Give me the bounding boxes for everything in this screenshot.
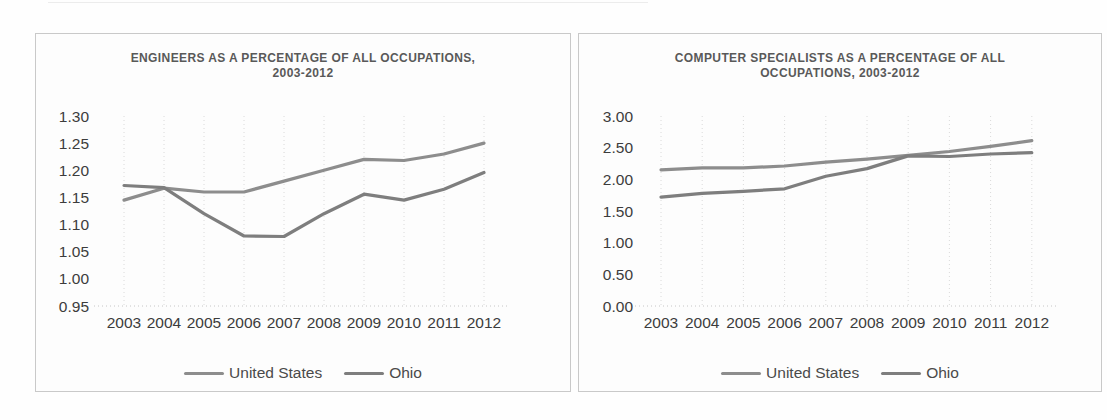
svg-text:2004: 2004 [685, 314, 720, 331]
svg-text:2007: 2007 [809, 314, 843, 331]
engineers-legend: United States Ohio [36, 364, 570, 382]
svg-text:2005: 2005 [187, 314, 221, 331]
svg-text:2008: 2008 [307, 314, 341, 331]
title-line-1: ENGINEERS AS A PERCENTAGE OF ALL OCCUPAT… [36, 51, 570, 66]
scan-artifact-line [48, 2, 648, 3]
svg-text:2008: 2008 [850, 314, 884, 331]
svg-text:1.25: 1.25 [59, 135, 89, 152]
svg-text:1.15: 1.15 [59, 189, 89, 206]
svg-text:2007: 2007 [267, 314, 301, 331]
svg-text:1.00: 1.00 [59, 270, 90, 287]
svg-text:2.50: 2.50 [603, 139, 634, 156]
svg-text:1.05: 1.05 [59, 243, 89, 260]
svg-text:2006: 2006 [227, 314, 261, 331]
ohio-line-swatch-icon [344, 372, 384, 375]
svg-text:1.50: 1.50 [603, 203, 634, 220]
svg-text:2009: 2009 [891, 314, 925, 331]
title-line-2: 2003-2012 [36, 66, 570, 81]
svg-text:2012: 2012 [1015, 314, 1049, 331]
computer-specialists-chart-title: COMPUTER SPECIALISTS AS A PERCENTAGE OF … [579, 51, 1101, 81]
svg-text:2009: 2009 [347, 314, 381, 331]
svg-text:2004: 2004 [147, 314, 182, 331]
legend-item-ohio: Ohio [344, 364, 422, 382]
svg-text:0.50: 0.50 [603, 266, 634, 283]
legend-label-united-states: United States [766, 364, 859, 382]
svg-text:2011: 2011 [427, 314, 460, 331]
engineers-plot-svg: 1.301.251.201.151.101.051.000.9520032004… [36, 99, 570, 341]
legend-label-ohio: Ohio [389, 364, 422, 382]
svg-text:2005: 2005 [726, 314, 760, 331]
svg-text:2.00: 2.00 [603, 171, 634, 188]
scanned-page: ENGINEERS AS A PERCENTAGE OF ALL OCCUPAT… [0, 0, 1107, 420]
svg-text:2006: 2006 [767, 314, 801, 331]
svg-text:2011: 2011 [974, 314, 1007, 331]
svg-text:1.20: 1.20 [59, 162, 90, 179]
computer-specialists-chart-panel: COMPUTER SPECIALISTS AS A PERCENTAGE OF … [578, 33, 1102, 392]
svg-text:2003: 2003 [107, 314, 141, 331]
svg-text:1.10: 1.10 [59, 216, 90, 233]
svg-text:3.00: 3.00 [603, 108, 634, 125]
legend-label-ohio: Ohio [926, 364, 959, 382]
united-states-line-swatch-icon [721, 372, 761, 375]
ohio-line-swatch-icon [881, 372, 921, 375]
svg-text:0.00: 0.00 [603, 298, 634, 315]
computer-specialists-plot-svg: 3.002.502.001.501.000.500.00200320042005… [579, 99, 1101, 341]
legend-item-united-states: United States [721, 364, 859, 382]
title-line-2: OCCUPATIONS, 2003-2012 [579, 66, 1101, 81]
svg-text:1.30: 1.30 [59, 108, 90, 125]
computer-specialists-legend: United States Ohio [579, 364, 1101, 382]
legend-label-united-states: United States [229, 364, 322, 382]
svg-text:2012: 2012 [467, 314, 501, 331]
svg-text:2010: 2010 [932, 314, 967, 331]
engineers-chart-panel: ENGINEERS AS A PERCENTAGE OF ALL OCCUPAT… [35, 33, 571, 392]
svg-text:2010: 2010 [387, 314, 422, 331]
legend-item-ohio: Ohio [881, 364, 959, 382]
legend-item-united-states: United States [184, 364, 322, 382]
svg-text:0.95: 0.95 [59, 298, 89, 315]
united-states-line-swatch-icon [184, 372, 224, 375]
svg-text:1.00: 1.00 [603, 234, 634, 251]
engineers-chart-title: ENGINEERS AS A PERCENTAGE OF ALL OCCUPAT… [36, 51, 570, 81]
svg-text:2003: 2003 [644, 314, 678, 331]
title-line-1: COMPUTER SPECIALISTS AS A PERCENTAGE OF … [579, 51, 1101, 66]
